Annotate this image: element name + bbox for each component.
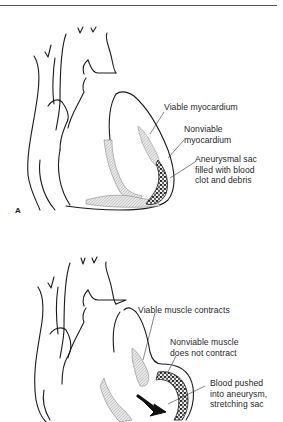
viable-myocardium-a [138,126,159,166]
aneurysmal-sac-a [146,160,168,205]
label-nonviable-muscle: Nonviable muscle does not contract [170,337,239,358]
septum-b [100,378,132,422]
heart-a [28,27,174,210]
heart-illustrations [0,0,283,422]
label-viable-myocardium: Viable myocardium [164,102,238,113]
panel-letter-a: A [15,206,21,215]
label-aneurysmal-sac: Aneurysmal sac filled with blood clot an… [195,154,257,186]
viable-muscle-b [132,348,149,386]
septum-a [104,140,142,202]
label-blood-pushed: Blood pushed into aneurysm, stretching s… [210,378,267,410]
label-nonviable-myocardium: Nonviable myocardium [184,124,231,145]
label-viable-muscle-contracts: Viable muscle contracts [138,305,230,316]
